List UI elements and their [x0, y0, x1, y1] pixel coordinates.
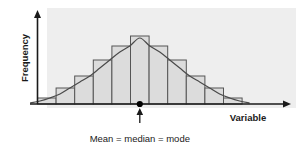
- bar-8: [168, 60, 187, 104]
- center-marker-dot: [137, 101, 143, 107]
- center-marker: [137, 101, 144, 123]
- histogram-bars: [38, 36, 243, 104]
- x-axis-arrow-icon: [283, 101, 291, 108]
- bar-6: [131, 36, 150, 104]
- caption-pointer-arrow-icon: [137, 108, 144, 115]
- bar-4: [93, 60, 112, 104]
- figure-root: Frequency Variable Mean = median = mode: [0, 0, 305, 151]
- bar-5: [112, 46, 131, 104]
- y-axis: [34, 10, 41, 104]
- center-caption-label: Mean = median = mode: [90, 133, 190, 144]
- x-axis-label: Variable: [230, 112, 266, 123]
- histogram-chart: Frequency Variable Mean = median = mode: [0, 0, 305, 151]
- bar-7: [149, 46, 168, 104]
- y-axis-arrow-icon: [34, 10, 41, 18]
- y-axis-label: Frequency: [19, 33, 30, 82]
